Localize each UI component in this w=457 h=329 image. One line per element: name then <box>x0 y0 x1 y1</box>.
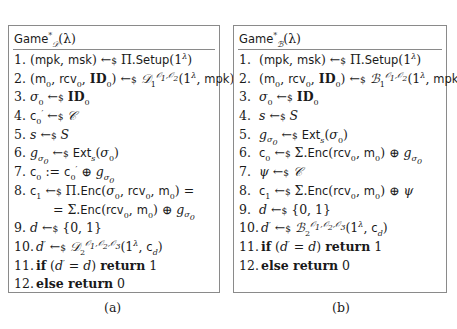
step-11: 11.if (d′ = d) return 1 <box>14 257 217 276</box>
game-b-box: Game*ℬ(λ) 1.(mpk, msk) ←$ Π.Setup(1λ) 2.… <box>233 25 447 293</box>
game-d-steps: 1.(mpk, msk) ←$ Π.Setup(1λ) 2.(m0, rcv0,… <box>14 51 217 294</box>
caption-a: (a) <box>104 300 121 315</box>
step-4: 4.c0′ ←$ 𝒞 <box>14 107 217 126</box>
step-12: 12.else return 0 <box>239 257 444 276</box>
step-3: 3.σ0 ←$ ID0 <box>14 88 217 107</box>
step-8: 8.c1 ←$ Σ.Enc(rcv0, m0) ⊕ ψ <box>239 182 444 201</box>
step-3: 3.σ0 ←$ ID0 <box>239 88 444 107</box>
step-6: 6.gσ0 ←$ Exts(σ0) <box>14 144 217 163</box>
step-10: 10.d′ ←$ ℬ2𝒪1,𝒪2,𝒪3(1λ, cd) <box>239 219 444 238</box>
step-12: 12.else return 0 <box>14 275 217 294</box>
game-b-steps: 1.(mpk, msk) ←$ Π.Setup(1λ) 2.(m0, rcv0,… <box>239 51 444 275</box>
step-8: 8.c1 ←$ Π.Enc(σ0, rcv0, m0) = <box>14 182 217 201</box>
game-b-title: Game*ℬ(λ) <box>239 29 301 48</box>
header-divider <box>238 49 442 50</box>
step-4: 4.s ←$ S <box>239 107 444 126</box>
step-9: 9.d ←$ {0, 1} <box>239 201 444 220</box>
step-2: 2.(m0, rcv0, ID0) ←$ ℬ1𝒪1,𝒪2(1λ, mpk) <box>239 70 444 89</box>
step-10: 10.d′ ←$ 𝒟2𝒪1,𝒪2,𝒪3(1λ, cd) <box>14 238 217 257</box>
step-1: 1.(mpk, msk) ←$ Π.Setup(1λ) <box>239 51 444 70</box>
step-2: 2.(m0, rcv0, ID0) ←$ 𝒟1𝒪1,𝒪2(1λ, mpk) <box>14 70 217 89</box>
step-6: 6.c0 ←$ Σ.Enc(rcv0, m0) ⊕ gσ0 <box>239 144 444 163</box>
header-divider <box>13 49 215 50</box>
step-1: 1.(mpk, msk) ←$ Π.Setup(1λ) <box>14 51 217 70</box>
step-8-continued: = Σ.Enc(rcv0, m0) ⊕ gσ0 <box>14 201 217 220</box>
step-5: 5.s ←$ S <box>14 126 217 145</box>
caption-b: (b) <box>332 300 350 315</box>
step-9: 9.d ←$ {0, 1} <box>14 219 217 238</box>
game-d-title: Game*𝒟(λ) <box>14 29 76 48</box>
step-7: 7.ψ ←$ 𝒞 <box>239 163 444 182</box>
game-d-box: Game*𝒟(λ) 1.(mpk, msk) ←$ Π.Setup(1λ) 2.… <box>8 25 220 293</box>
step-11: 11.if (d′ = d) return 1 <box>239 238 444 257</box>
step-7: 7.c0 := c0′ ⊕ gσ0 <box>14 163 217 182</box>
step-5: 5.gσ0 ←$ Exts(σ0) <box>239 126 444 145</box>
